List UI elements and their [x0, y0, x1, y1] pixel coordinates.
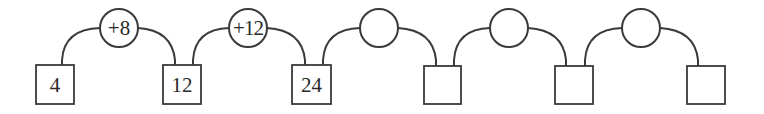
number-box-5[interactable]	[555, 66, 593, 104]
arc-op5-to-box6	[660, 28, 698, 66]
box-value-3: 24	[292, 75, 331, 96]
arc-box4-to-op4	[454, 28, 490, 66]
operation-circle-3[interactable]	[360, 9, 398, 47]
arc-op3-to-box4	[398, 28, 436, 66]
operation-circle-5[interactable]	[622, 9, 660, 47]
box-value-1: 4	[36, 75, 74, 96]
number-boxes	[36, 65, 725, 104]
arc-box2-to-op2	[193, 28, 229, 65]
arc-op2-to-box3	[267, 28, 305, 65]
arc-box1-to-op1	[62, 28, 100, 65]
arc-op4-to-box5	[528, 28, 566, 66]
number-box-6[interactable]	[687, 66, 725, 104]
operation-circles	[100, 9, 660, 47]
number-box-4[interactable]	[424, 66, 461, 104]
arc-box3-to-op3	[323, 28, 360, 65]
arc-op1-to-box2	[138, 28, 175, 65]
operation-label-1: +8	[100, 18, 138, 39]
operation-label-2: +12	[226, 18, 270, 39]
arc-box5-to-op5	[585, 28, 622, 66]
box-value-2: 12	[163, 75, 201, 96]
operation-circle-4[interactable]	[490, 9, 528, 47]
